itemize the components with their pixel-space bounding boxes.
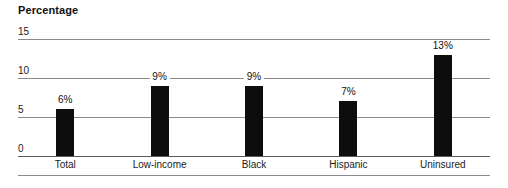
bar [245, 86, 263, 156]
bar-value-label: 9% [149, 71, 169, 83]
bar-value-label: 13% [430, 40, 456, 52]
bar [151, 86, 169, 156]
x-axis-tick-label: Black [242, 160, 266, 170]
y-axis-tick-label: 5 [18, 105, 24, 115]
x-axis-tick-label: Total [55, 160, 76, 170]
y-axis-tick-label: 15 [18, 27, 29, 37]
percentage-bar-chart: Percentage 0510156%9%9%7%13% TotalLow-in… [0, 0, 508, 188]
bar [56, 109, 74, 156]
bar [339, 101, 357, 156]
x-axis-labels: TotalLow-incomeBlackHispanicUninsured [18, 158, 490, 174]
bar [434, 55, 452, 156]
x-axis-tick-label: Low-income [133, 160, 187, 170]
bottom-divider [18, 175, 490, 176]
chart-title: Percentage [18, 4, 78, 16]
bar-value-label: 6% [55, 94, 75, 106]
gridline-0 [18, 156, 490, 157]
gridline-15 [18, 39, 490, 40]
x-axis-tick-label: Hispanic [329, 160, 367, 170]
plot-area: 0510156%9%9%7%13% [18, 39, 490, 156]
bar-value-label: 7% [338, 86, 358, 98]
bar-value-label: 9% [244, 71, 264, 83]
x-axis-tick-label: Uninsured [420, 160, 466, 170]
y-axis-tick-label: 0 [18, 144, 24, 154]
y-axis-tick-label: 10 [18, 66, 29, 76]
